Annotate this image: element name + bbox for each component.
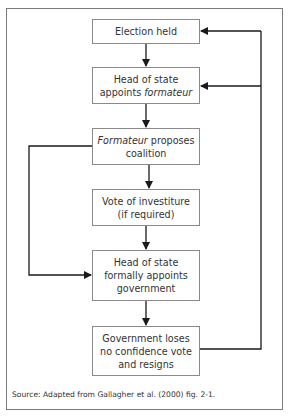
node-label-line1: Head of state (114, 256, 179, 269)
node-label-line2: formally appoints (104, 269, 188, 282)
node-label-line2: no confidence vote (100, 345, 192, 358)
node-head-of-state-formally-appoints: Head of state formally appoints governme… (92, 250, 200, 301)
node-label-italic: Formateur (98, 135, 148, 146)
node-label-line1: Vote of investiture (102, 195, 190, 208)
node-label-line2: (if required) (118, 208, 175, 221)
node-head-of-state-appoints-formateur: Head of state appoints formateur (92, 67, 200, 104)
node-label-line1: Head of state (114, 73, 179, 86)
node-label-line2: appoints (100, 87, 144, 98)
node-formateur-proposes-coalition: Formateur proposes coalition (92, 128, 200, 165)
node-label: Election held (115, 25, 177, 38)
node-label-line1: proposes (148, 135, 195, 146)
source-caption: Source: Adapted from Gallagher et al. (2… (12, 390, 215, 399)
node-label-line3: government (117, 282, 176, 295)
node-election-held: Election held (92, 19, 200, 44)
node-label-italic: formateur (144, 87, 192, 98)
node-label-line2: coalition (126, 147, 167, 160)
node-label-line1: Government loses (102, 332, 189, 345)
node-label-line3: and resigns (118, 358, 174, 371)
node-vote-of-investiture: Vote of investiture (if required) (92, 189, 200, 226)
node-government-loses-confidence: Government loses no confidence vote and … (92, 326, 200, 376)
